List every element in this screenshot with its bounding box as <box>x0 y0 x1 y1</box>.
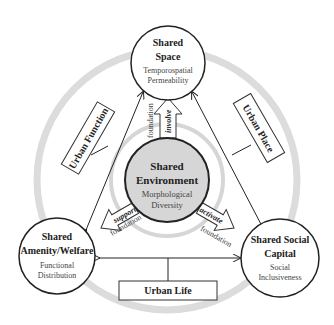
svg-text:Diversity: Diversity <box>151 200 183 210</box>
svg-text:Inclusiveness: Inclusiveness <box>258 273 301 282</box>
svg-text:Permeability: Permeability <box>148 76 189 85</box>
svg-text:foundation: foundation <box>146 103 155 138</box>
svg-text:Social: Social <box>270 263 291 272</box>
diagram-canvas: Urban Function Urban Place Urban Life in… <box>0 0 334 325</box>
svg-text:Shared Social: Shared Social <box>251 234 310 245</box>
svg-text:Environment: Environment <box>136 174 198 186</box>
svg-text:Space: Space <box>156 51 182 62</box>
urban-life-label: Urban Life <box>119 281 217 300</box>
urban-function-label: Urban Function <box>61 102 114 174</box>
node-shared-environment: Shared Environment Morphological Diversi… <box>125 138 209 222</box>
svg-text:Temporospatial: Temporospatial <box>143 66 193 75</box>
svg-text:Capital: Capital <box>264 248 296 259</box>
node-shared-amenity-welfare: Shared Amenity/Welfare Functional Distri… <box>19 218 95 294</box>
svg-text:Shared: Shared <box>153 37 184 48</box>
svg-text:Amenity/Welfare: Amenity/Welfare <box>20 245 94 256</box>
node-shared-social-capital: Shared Social Capital Social Inclusivene… <box>241 219 319 297</box>
involve-arrow: involve foundation <box>146 98 182 138</box>
svg-text:involve: involve <box>164 109 173 133</box>
connector-urban-place <box>232 145 251 155</box>
node-shared-space: Shared Space Temporospatial Permeability <box>131 26 205 100</box>
svg-text:Urban Life: Urban Life <box>144 285 192 296</box>
urban-place-label: Urban Place <box>233 94 284 163</box>
svg-text:Urban Function: Urban Function <box>67 105 111 170</box>
svg-text:Shared: Shared <box>42 231 73 242</box>
svg-text:Distribution: Distribution <box>38 271 77 280</box>
svg-text:Functional: Functional <box>40 261 75 270</box>
svg-text:Morphological: Morphological <box>142 189 193 199</box>
svg-text:Shared: Shared <box>150 160 183 172</box>
